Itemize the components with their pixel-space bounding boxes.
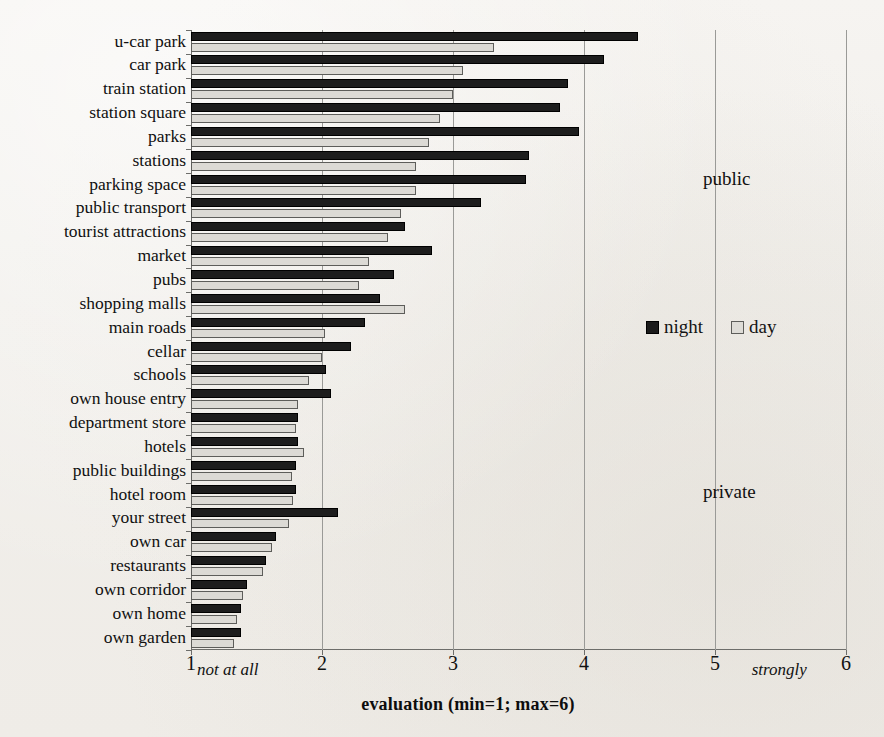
category-label: u-car park	[1, 33, 186, 50]
bar-night	[191, 79, 568, 88]
y-tick	[186, 125, 191, 126]
y-tick	[186, 650, 191, 651]
bar-night	[191, 198, 481, 207]
bar-day	[191, 376, 309, 385]
x-axis-anchor-right: strongly	[752, 660, 807, 680]
bar-day	[191, 353, 322, 362]
bar-day	[191, 233, 388, 242]
bar-group	[191, 79, 846, 101]
category-label: stations	[1, 152, 186, 169]
category-label: pubs	[1, 271, 186, 288]
category-label: station square	[1, 104, 186, 121]
y-tick	[186, 102, 191, 103]
y-tick	[186, 221, 191, 222]
bar-group	[191, 246, 846, 268]
category-label: schools	[1, 366, 186, 383]
category-label: train station	[1, 80, 186, 97]
y-tick	[186, 602, 191, 603]
bar-group	[191, 127, 846, 149]
category-label: car park	[1, 56, 186, 73]
bar-group	[191, 294, 846, 316]
bar-night	[191, 485, 296, 494]
legend-swatch-night-icon	[646, 321, 659, 334]
bar-day	[191, 543, 272, 552]
category-label: own garden	[1, 629, 186, 646]
y-tick	[186, 555, 191, 556]
bar-night	[191, 604, 241, 613]
y-tick	[186, 149, 191, 150]
category-label: public buildings	[1, 462, 186, 479]
x-axis-title: evaluation (min=1; max=6)	[0, 694, 884, 715]
y-tick	[186, 30, 191, 31]
x-tick-label-3: 3	[448, 652, 458, 675]
chart-legend: night day	[646, 316, 777, 338]
bar-day	[191, 209, 401, 218]
y-tick	[186, 626, 191, 627]
bar-night	[191, 556, 266, 565]
bar-night	[191, 508, 338, 517]
bar-night	[191, 32, 638, 41]
bar-night	[191, 127, 579, 136]
category-label: restaurants	[1, 557, 186, 574]
bar-day	[191, 90, 453, 99]
bar-group	[191, 461, 846, 483]
bar-day	[191, 591, 243, 600]
category-label: tourist attractions	[1, 223, 186, 240]
bar-night	[191, 389, 331, 398]
y-tick	[186, 197, 191, 198]
bar-group	[191, 32, 846, 54]
bar-group	[191, 508, 846, 530]
bar-day	[191, 496, 293, 505]
bar-group	[191, 103, 846, 125]
bar-group	[191, 222, 846, 244]
bar-group	[191, 55, 846, 77]
bar-day	[191, 329, 325, 338]
bar-group	[191, 270, 846, 292]
annotation-public: public	[703, 168, 751, 190]
y-tick	[186, 316, 191, 317]
bar-group	[191, 413, 846, 435]
bar-night	[191, 151, 529, 160]
bar-day	[191, 639, 234, 648]
bar-night	[191, 246, 432, 255]
category-label: your street	[1, 509, 186, 526]
category-label: cellar	[1, 343, 186, 360]
y-tick	[186, 364, 191, 365]
bar-day	[191, 281, 359, 290]
bar-group	[191, 342, 846, 364]
y-tick	[186, 340, 191, 341]
category-label: market	[1, 247, 186, 264]
x-tick-label-5: 5	[710, 652, 720, 675]
category-label: main roads	[1, 319, 186, 336]
y-tick	[186, 531, 191, 532]
y-tick	[186, 245, 191, 246]
category-label: parks	[1, 128, 186, 145]
bar-day	[191, 114, 440, 123]
y-tick	[186, 483, 191, 484]
bar-night	[191, 103, 560, 112]
bar-group	[191, 437, 846, 459]
category-axis-labels: u-car parkcar parktrain stationstation s…	[0, 30, 186, 650]
bar-day	[191, 257, 369, 266]
bar-group	[191, 389, 846, 411]
category-label: public transport	[1, 199, 186, 216]
category-label: own corridor	[1, 581, 186, 598]
bar-day	[191, 567, 263, 576]
bar-night	[191, 294, 380, 303]
bar-day	[191, 424, 296, 433]
bar-group	[191, 532, 846, 554]
category-label: shopping malls	[1, 295, 186, 312]
y-tick	[186, 268, 191, 269]
bar-day	[191, 43, 494, 52]
horizontal-bar-chart: u-car parkcar parktrain stationstation s…	[0, 0, 884, 737]
bar-day	[191, 615, 237, 624]
bar-night	[191, 318, 365, 327]
bar-group	[191, 198, 846, 220]
y-tick	[186, 54, 191, 55]
legend-swatch-day-icon	[731, 321, 744, 334]
bar-day	[191, 66, 463, 75]
bar-night	[191, 437, 298, 446]
bar-night	[191, 222, 405, 231]
bar-night	[191, 365, 326, 374]
y-tick	[186, 78, 191, 79]
